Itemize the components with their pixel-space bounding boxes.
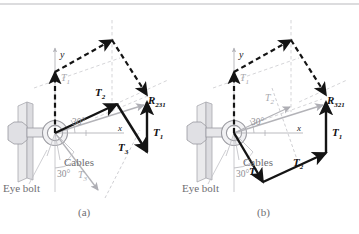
mounting-plate-face <box>206 102 212 180</box>
label-T3-cable-a: T3 <box>78 169 88 183</box>
angle-label-lower-a: 30° <box>57 169 71 179</box>
callout-cables-b: Cables <box>243 156 273 168</box>
resultant-ray-a <box>55 105 144 133</box>
hex-nut <box>187 122 206 144</box>
callout-eye-bolt-b: Eye bolt <box>182 182 219 194</box>
axis-label-x-b: x <box>296 123 301 133</box>
angle-label-upper-a: 30° <box>72 117 86 127</box>
panel-b: y x T1 T2 T3 T2 T1 R321 30° 30° Cables E… <box>182 20 347 219</box>
caption-a: (a) <box>78 206 91 219</box>
solid-vector-chain-a <box>55 102 147 152</box>
axis-label-x-a: x <box>117 123 122 133</box>
label-T1-a: T1 <box>153 126 163 141</box>
mounting-plate-face <box>27 102 33 180</box>
label-T1-dashed-a: T1 <box>61 72 70 86</box>
axis-label-y-b: y <box>238 49 244 60</box>
label-T2-cable-b: T2 <box>265 92 275 106</box>
resultant-ray-b <box>234 105 323 133</box>
axis-label-y-a: y <box>59 49 65 60</box>
vector-T2-solid-a <box>55 104 117 133</box>
label-T3-a: T3 <box>118 141 129 156</box>
helper-dashed-b-1 <box>213 58 299 88</box>
callout-eye-bolt-a: Eye bolt <box>3 182 40 194</box>
vector-diagram-figure: y x T1 T2 T3 T1 T3 R231 30° 30° Cables E… <box>0 0 359 234</box>
label-T2-a: T2 <box>95 86 106 101</box>
label-resultant-b: R321 <box>326 94 345 109</box>
vector-T3-dashed-a <box>112 40 147 95</box>
label-T1-b: T1 <box>332 126 342 141</box>
callout-cables-a: Cables <box>64 156 94 168</box>
caption-b: (b) <box>257 206 270 219</box>
bolt-shaft <box>206 128 223 137</box>
panel-a: y x T1 T2 T3 T1 T3 R231 30° 30° Cables E… <box>3 20 168 219</box>
bolt-shaft <box>27 128 44 137</box>
angle-label-upper-b: 30° <box>251 117 265 127</box>
helper-dashed-a-1 <box>34 58 120 88</box>
label-resultant-a: R231 <box>147 94 166 109</box>
label-T1-dashed-b: T1 <box>240 72 249 86</box>
hex-nut <box>8 122 27 144</box>
angle-label-lower-b: 30° <box>236 169 250 179</box>
vector-T3-dashed-b <box>291 40 326 95</box>
